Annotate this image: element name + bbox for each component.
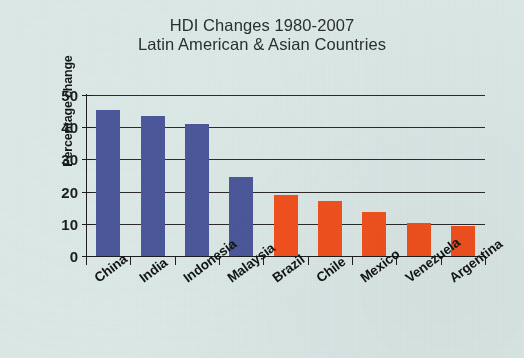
x-tick-mark-0 [86,256,87,265]
x-axis-tick-marks [86,256,486,265]
y-tick-mark-20 [82,192,93,193]
y-tick-label-50: 50 [38,87,78,104]
y-axis-line [86,94,87,257]
bar-brazil [274,195,298,256]
x-tick-mark-4 [263,256,264,265]
y-tick-label-10: 10 [38,215,78,232]
bar-chile [318,201,342,256]
chart-title-line-1: HDI Changes 1980-2007 [0,16,524,35]
y-tick-mark-40 [82,127,93,128]
y-tick-label-0: 0 [38,248,78,265]
x-tick-mark-8 [441,256,442,265]
x-tick-mark-1 [130,256,131,265]
bar-chart-figure: HDI Changes 1980-2007 Latin American & A… [0,0,524,358]
bar-mexico [362,212,386,256]
y-tick-mark-50 [82,95,93,96]
bar-india [141,116,165,256]
bar-venezuela [407,223,431,256]
x-tick-mark-6 [352,256,353,265]
bars-layer [86,95,485,256]
x-tick-mark-7 [396,256,397,265]
y-tick-label-30: 30 [38,151,78,168]
chart-title-line-2: Latin American & Asian Countries [0,35,524,54]
x-tick-mark-2 [175,256,176,265]
chart-title: HDI Changes 1980-2007 Latin American & A… [0,16,524,54]
bar-china [96,110,120,257]
y-tick-label-20: 20 [38,183,78,200]
x-tick-mark-5 [308,256,309,265]
y-tick-mark-10 [82,224,93,225]
y-tick-mark-30 [82,159,93,160]
x-tick-mark-9 [485,256,486,265]
plot-area [86,95,485,256]
bar-argentina [451,226,475,256]
bar-malaysia [229,177,253,256]
y-tick-label-40: 40 [38,119,78,136]
x-tick-mark-3 [219,256,220,265]
bar-indonesia [185,124,209,256]
